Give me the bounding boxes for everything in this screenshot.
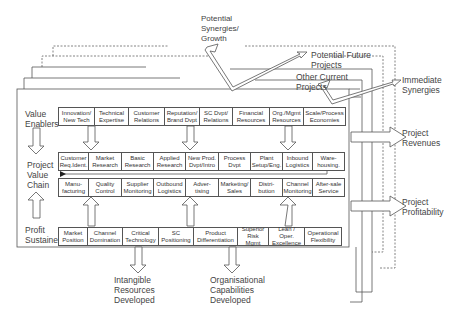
chain-cell: Adver- tising [186, 179, 219, 196]
enabler-cell: Customer Relations [129, 108, 165, 125]
chain-cell: After-sale Service [313, 179, 344, 196]
value-enablers-label: Value Enablers [25, 109, 59, 129]
intangible-resources-label: Intangible Resources Developed [114, 275, 155, 305]
enabler-cell: Financial Resources [233, 108, 270, 125]
chain-cell: Marketing/ Sales [219, 179, 251, 196]
chain-cell: Plant Setup/Eng. [251, 153, 283, 170]
chain-cell: Channel Monitoring [283, 179, 313, 196]
chain-cell: Outbound Logistics [154, 179, 186, 196]
value-chain-row-2: Manu- facturing Quality Control Supplier… [58, 178, 345, 197]
organisational-capabilities-label: Organisational Capabilities Developed [210, 275, 265, 305]
sustainer-cell: Channel Domination [88, 228, 123, 245]
chain-cell: Process Dvpt [219, 153, 251, 170]
sustainer-cell: Critical Technology [123, 228, 159, 245]
enabler-cell: Scale/Process Economies [304, 108, 345, 125]
sustainer-cell: Operational Flexibility [305, 228, 341, 245]
other-current-projects-label: Other Current Projects [296, 72, 348, 92]
enabler-cell: SC Dvpt/ Relations [200, 108, 233, 125]
chain-cell: New Prod. Dvpt/Intro [186, 153, 219, 170]
chain-cell: Quality Control [89, 179, 122, 196]
sustainer-cell: SC Positioning [159, 228, 194, 245]
chain-cell: Customer Req.Ident. [59, 153, 89, 170]
immediate-synergies-label: Immediate Synergies [402, 75, 442, 95]
enabler-cell: Innovation/ New Tech [59, 108, 95, 125]
chain-cell: Manu- facturing [59, 179, 89, 196]
potential-synergies-label: Potential Synergies/ Growth [201, 14, 239, 44]
project-profitability-label: Project Profitability [402, 197, 444, 217]
chain-cell: Supplier Monitoring [122, 179, 154, 196]
profit-sustainers-row: Market Position Channel Domination Criti… [58, 227, 342, 246]
enabler-cell: Technical Expertise [95, 108, 129, 125]
sustainer-cell: Product Differentiation [194, 228, 238, 245]
sustainer-cell: Market Position [59, 228, 88, 245]
project-revenues-label: Project Revenues [402, 128, 440, 148]
enabler-cell: Reputation/ Brand Dvpt [165, 108, 200, 125]
sustainer-cell: Superior Risk Mgmt [238, 228, 269, 245]
chain-cell: Market Research [89, 153, 122, 170]
value-chain-row-1: Customer Req.Ident. Market Research Basi… [58, 152, 345, 171]
sustainer-cell: Lean / Oper. Excellence [269, 228, 305, 245]
chain-cell: Inbound Logistics [283, 153, 313, 170]
potential-future-projects-label: Potential Future Projects [311, 50, 371, 70]
chain-cell: Ware- housing. [313, 153, 344, 170]
project-value-chain-label: Project Value Chain [27, 160, 53, 190]
enabler-cell: Org./Mgmt Resources [270, 108, 304, 125]
chain-cell: Distri- bution [251, 179, 283, 196]
value-enablers-row: Innovation/ New Tech Technical Expertise… [58, 107, 346, 126]
chain-cell: Applied Research [154, 153, 186, 170]
chain-cell: Basic Research [122, 153, 154, 170]
